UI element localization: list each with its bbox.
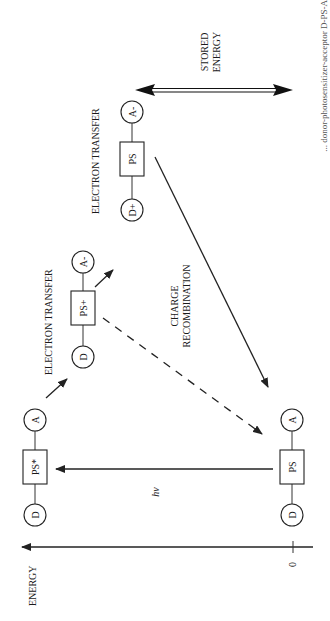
donor-label: D (287, 511, 298, 518)
electron-transfer-1-label: ELECTRON TRANSFER (43, 269, 54, 375)
charge-recombination-arrow (155, 157, 268, 387)
svg-text:STORED: STORED (199, 33, 210, 72)
electron-transfer-1: ELECTRON TRANSFER (43, 269, 67, 398)
photosensitizer-label: PS* (30, 459, 41, 475)
electron-transfer-2-label: ELECTRON TRANSFER (90, 108, 101, 214)
svg-text:ENERGY: ENERGY (211, 32, 222, 73)
excited-state-molecule: D PS* A (23, 409, 47, 526)
photoinduced-electron-transfer-diagram: 0 ENERGY D PS A D PS* A hν ELECTRON TRAN… (0, 0, 330, 621)
stored-energy-arrow (135, 84, 293, 96)
acceptor-label: A- (127, 107, 138, 118)
figure-caption-fragment: ... donor-photosensitizer-acceptor D-PS-… (319, 0, 329, 152)
photosensitizer-label: PS (287, 461, 298, 472)
arrowhead-left (135, 84, 155, 96)
stored-energy-label: STORED ENERGY (199, 32, 222, 73)
excitation-arrow: hν (56, 469, 273, 497)
donor-label: D+ (127, 203, 138, 216)
ground-state-molecule: D PS A (280, 409, 304, 526)
arrowhead-right (273, 84, 293, 96)
h-nu-label: hν (150, 487, 161, 497)
zero-tick-label: 0 (287, 562, 298, 567)
acceptor-label: A (30, 416, 41, 424)
acceptor-label: A- (78, 257, 89, 268)
charge-separated-2-molecule: D+ PS A- (120, 101, 144, 221)
charge-separated-1-molecule: D PS+ A- (71, 251, 95, 368)
energy-axis-label: ENERGY (27, 565, 38, 606)
photosensitizer-label: PS (127, 153, 138, 164)
photosensitizer-label: PS+ (78, 299, 89, 316)
acceptor-label: A (287, 416, 298, 424)
charge-recombination-label: CHARGE RECOMBINATION (169, 265, 192, 348)
svg-text:CHARGE: CHARGE (169, 285, 180, 326)
donor-label: D (78, 353, 89, 360)
donor-label: D (30, 511, 41, 518)
energy-axis: 0 ENERGY (22, 541, 313, 606)
svg-text:RECOMBINATION: RECOMBINATION (181, 265, 192, 348)
